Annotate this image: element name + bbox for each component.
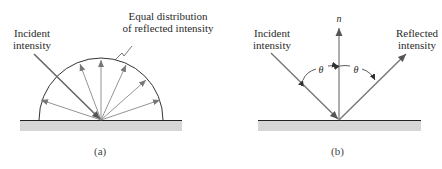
reflected-label-b-line2: intensity: [387, 39, 442, 51]
angle-arc-right: [340, 66, 350, 67]
angle-arc-right-2: [362, 69, 375, 80]
theta-left-label: θ: [315, 64, 327, 76]
caption-b: (b): [331, 145, 344, 157]
reflected-label-b: Reflected intensity: [387, 27, 442, 51]
incident-ray-a: [34, 54, 100, 119]
angle-arc-left-2: [328, 66, 338, 67]
incident-label-b-line1: Incident: [244, 27, 300, 39]
leader-line: [115, 46, 132, 60]
incident-ray-b: [271, 53, 338, 119]
theta-right-label: θ: [350, 64, 362, 76]
incident-label-b: Incident intensity: [244, 27, 300, 51]
incident-label-b-line2: intensity: [244, 39, 300, 51]
distribution-label-line1: Equal distribution: [118, 10, 218, 22]
caption-a: (a): [94, 145, 106, 157]
reflected-label-b-line1: Reflected: [387, 27, 442, 39]
surface-fill-a: [20, 121, 182, 131]
distribution-label-line2: of reflected intensity: [118, 22, 218, 34]
incident-label-a: Incident intensity: [4, 27, 60, 51]
surface-fill-b: [258, 121, 421, 131]
normal-label: n: [333, 13, 345, 25]
incident-label-a-line2: intensity: [4, 39, 60, 51]
reflected-rays-a: [41, 60, 160, 120]
panel-a: [20, 46, 182, 131]
incident-label-a-line1: Incident: [4, 27, 60, 39]
distribution-label: Equal distribution of reflected intensit…: [118, 10, 218, 34]
reflection-diagram: [0, 0, 442, 169]
